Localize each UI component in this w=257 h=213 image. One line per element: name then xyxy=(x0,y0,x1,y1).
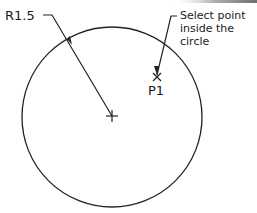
diagram-canvas: R1.5 P1 Select point inside the circle xyxy=(0,0,257,213)
callout-line-1: Select point xyxy=(180,9,246,22)
radius-label: R1.5 xyxy=(5,8,35,23)
callout-line-2: inside the xyxy=(180,22,234,35)
callout-text: Select point inside the circle xyxy=(180,9,249,48)
top-band xyxy=(170,0,257,3)
radius-leader xyxy=(43,15,112,116)
point-label: P1 xyxy=(148,83,164,98)
callout-leader xyxy=(154,16,177,75)
callout-line-3: circle xyxy=(180,35,209,48)
